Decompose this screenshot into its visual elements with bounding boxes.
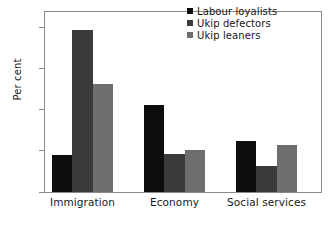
legend: Labour loyalistsUkip defectorsUkip leane… — [185, 3, 279, 43]
y-tick-mark — [39, 109, 44, 110]
bar — [144, 105, 164, 192]
legend-item: Ukip leaners — [187, 29, 277, 41]
bar — [256, 166, 276, 192]
y-tick-mark — [39, 192, 44, 193]
bar-chart: Per cent 010203040 ImmigrationEconomySoc… — [0, 0, 330, 231]
bar — [236, 141, 256, 192]
bar — [93, 84, 113, 192]
bar — [164, 154, 184, 192]
legend-item: Ukip defectors — [187, 17, 277, 29]
y-tick-mark — [39, 150, 44, 151]
bar — [72, 30, 92, 192]
bar — [185, 150, 205, 192]
legend-label: Ukip defectors — [197, 18, 271, 29]
legend-swatch-icon — [187, 32, 193, 38]
legend-item: Labour loyalists — [187, 5, 277, 17]
legend-label: Ukip leaners — [197, 30, 261, 41]
legend-swatch-icon — [187, 20, 193, 26]
x-axis-label: Social services — [207, 196, 327, 208]
bar — [277, 145, 297, 192]
bar — [52, 155, 72, 192]
y-tick-mark — [39, 27, 44, 28]
legend-swatch-icon — [187, 8, 193, 14]
y-axis-title: Per cent — [12, 25, 23, 135]
legend-label: Labour loyalists — [197, 6, 277, 17]
y-tick-mark — [39, 68, 44, 69]
